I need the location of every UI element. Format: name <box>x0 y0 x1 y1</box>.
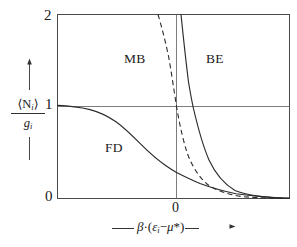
maxwell-boltzmann-label: MB <box>124 52 146 66</box>
fermi-dirac-label: FD <box>105 141 123 155</box>
x-axis-close-paren: ) <box>180 219 184 234</box>
bose-einstein-label: BE <box>206 52 224 66</box>
x-axis-epsilon-subscript: i <box>157 225 159 235</box>
y-tick-label-2: 2 <box>44 8 52 23</box>
y-axis-arrow-head-icon <box>27 59 32 65</box>
y-axis-label: ⟨Ni⟩ gi <box>6 96 50 131</box>
fermi-dirac-curve <box>58 105 290 198</box>
x-axis-left-rule <box>112 228 134 229</box>
x-axis-label: β·(εi−μ*) <box>112 219 199 235</box>
y-axis-numerator-subscript: i <box>31 102 33 112</box>
y-axis-numerator: ⟨Ni⟩ <box>6 96 50 113</box>
x-axis-right-rule <box>185 228 199 229</box>
quantum-statistics-distribution-chart: 2 1 0 0 MB BE FD ⟨Ni⟩ gi β·(εi−μ*) <box>0 0 297 247</box>
x-tick-label-0: 0 <box>172 201 179 215</box>
y-axis-denominator-subscript: i <box>30 121 32 131</box>
y-axis-denominator: gi <box>6 114 50 131</box>
x-axis-minus: − <box>160 219 167 234</box>
y-tick-label-0: 0 <box>45 189 53 204</box>
x-axis-arrow-head-icon <box>230 224 236 228</box>
